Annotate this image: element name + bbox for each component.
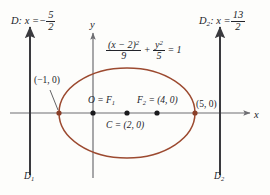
equation-equals: = 1 <box>167 44 181 55</box>
d1-letter: D <box>24 171 31 181</box>
equation-x-denominator: 9 <box>106 51 141 61</box>
point-focus2 <box>154 110 159 115</box>
directrix-left-var: x = <box>25 15 39 26</box>
directrix-right-bottom-label: D2 <box>214 172 224 182</box>
vertex-right-label: (5, 0) <box>196 100 217 110</box>
directrix-left-colon: : <box>19 15 23 26</box>
d1-subscript: 1 <box>31 175 34 182</box>
directrix-left-label: D: x =−52 <box>11 10 55 32</box>
equation-y-exponent: 2 <box>159 39 162 46</box>
equation-plus-sign: + <box>144 44 151 55</box>
directrix-left-numerator: 5 <box>46 10 55 22</box>
focus2-label: F2 = (4, 0) <box>137 96 178 106</box>
center-label: C = (2, 0) <box>106 121 144 131</box>
d2-subscript: 2 <box>221 175 224 182</box>
equation-x-term: (x − 2)29 <box>106 40 141 62</box>
vertex-left-label: (−1, 0) <box>34 76 60 86</box>
equation-y-denominator: 5 <box>153 51 165 61</box>
equation-y-term: y25 <box>153 40 165 62</box>
directrix-left-bottom-label: D1 <box>24 172 34 182</box>
point-center <box>124 110 129 115</box>
d2-letter: D <box>214 171 221 181</box>
point-origin-focus1 <box>90 110 95 115</box>
equation-x-exponent: 2 <box>136 39 139 46</box>
directrix-right-label: D2: x =132 <box>199 10 245 32</box>
figure-canvas: D: x =−52 D2: x =132 D1 D2 y x (x − 2)29… <box>0 0 270 195</box>
directrix-right-colon: : <box>210 15 214 26</box>
equation-x-base: (x − 2) <box>108 39 136 50</box>
point-vertex-right <box>192 110 197 115</box>
directrix-left-fraction: 52 <box>46 10 55 32</box>
origin-focus1-text: O = F <box>88 95 112 105</box>
directrix-right-name: D <box>199 15 207 26</box>
origin-focus1-subscript: 1 <box>112 99 115 106</box>
directrix-left-sign: − <box>39 15 46 26</box>
directrix-right-fraction: 132 <box>231 10 246 32</box>
y-axis-label: y <box>90 20 95 31</box>
directrix-right-var: x = <box>216 15 230 26</box>
focus2-coordinates: = (4, 0) <box>146 95 178 105</box>
directrix-left-name: D <box>11 15 19 26</box>
directrix-right-denominator: 2 <box>231 22 246 33</box>
x-axis-label: x <box>254 110 259 121</box>
ellipse-equation: (x − 2)29 + y25 = 1 <box>106 40 182 62</box>
point-vertex-left <box>56 110 61 115</box>
origin-focus1-label: O = F1 <box>88 96 115 106</box>
directrix-right-numerator: 13 <box>231 10 246 22</box>
leader-line-vertex-left <box>50 90 58 110</box>
directrix-left-denominator: 2 <box>46 22 55 33</box>
